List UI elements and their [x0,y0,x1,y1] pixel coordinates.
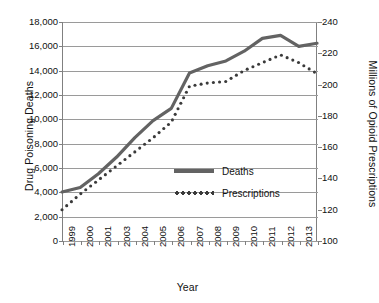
series-dot [176,107,179,110]
series-dot [114,166,117,169]
series-dot [308,67,311,70]
series-dot [206,82,209,85]
x-axis-tick-mark [227,241,228,245]
y-axis-right-tick-mark [318,210,322,211]
series-dot [193,84,196,87]
x-axis-tick-mark [172,241,173,245]
y-axis-right-tick-mark [318,53,322,54]
series-dot [200,83,203,86]
series-dot [224,80,227,83]
x-axis-tick-mark [209,241,210,245]
series-dot [119,162,122,165]
series-dot [65,204,68,207]
legend-label-deaths: Deaths [222,166,254,177]
series-dot [167,123,170,126]
series-dot [153,135,156,138]
series-dot [263,60,266,63]
y-axis-right-tick-mark [318,85,322,86]
series-dot [123,158,126,161]
x-axis-tick-mark [300,241,301,245]
series-dot [268,58,271,61]
x-axis-tick-mark [154,241,155,245]
series-dot [257,63,260,66]
series-dot [240,70,243,73]
solid-line-key [172,165,216,177]
series-dot [148,139,151,142]
x-axis-tick-mark [99,241,100,245]
x-axis-tick-mark [191,241,192,245]
y-axis-right-tick-mark [318,178,322,179]
x-axis-tick-mark [63,241,64,245]
series-dot [286,56,289,59]
series-dot [84,188,87,191]
series-dot [274,55,277,58]
series-dot [79,192,82,195]
series-dot [158,131,161,134]
series-dot [70,200,73,203]
y-axis-right-tick-mark [318,22,322,23]
series-dot [188,85,191,88]
x-axis-tick-mark [81,241,82,245]
y-axis-right-tick-mark [318,116,322,117]
series-dot [104,173,107,176]
x-axis-tick-mark [136,241,137,245]
series-dot [297,61,300,64]
y-axis-right-tick-mark [318,147,322,148]
x-axis-tick-mark [263,241,264,245]
series-dot [138,147,141,150]
legend-label-prescriptions: Prescriptions [222,188,280,199]
series-dot [75,196,78,199]
series-dot [313,71,316,74]
series-dot [128,154,131,157]
series-dot [280,54,283,57]
series-dot [218,80,221,83]
series-layer [62,22,317,241]
series-dot [302,64,305,67]
series-dot [133,150,136,153]
x-axis-tick-mark [118,241,119,245]
series-dot [246,68,249,71]
series-dot [182,96,185,99]
series-dot [60,208,63,211]
series-dot [230,77,233,80]
dotted-line-key [172,187,216,199]
series-dot [162,127,165,130]
series-dot [89,184,92,187]
series-dot [179,102,182,105]
series-dot [143,143,146,146]
series-dot [109,169,112,172]
series-dot [171,118,174,121]
legend: Deaths Prescriptions [172,160,294,204]
series-dot [291,59,294,62]
series-dot [235,74,238,77]
x-axis-tick-mark [318,241,319,245]
series-dot [99,177,102,180]
x-axis-tick-mark [245,241,246,245]
x-axis-tick-mark [282,241,283,245]
series-dot [94,181,97,184]
series-dot [174,113,177,116]
series-dot [185,91,188,94]
series-dot [251,65,254,68]
series-dot [212,81,215,84]
legend-item-deaths: Deaths [172,160,294,182]
legend-item-prescriptions: Prescriptions [172,182,294,204]
